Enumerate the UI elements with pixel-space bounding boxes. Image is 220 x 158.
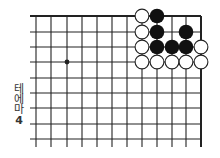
- star-point-icon: [65, 60, 70, 65]
- grid-lines: [30, 16, 201, 147]
- black-stone: [179, 25, 194, 40]
- white-stone: [135, 55, 149, 69]
- label-number: 4: [15, 116, 23, 126]
- white-stone: [135, 40, 149, 54]
- diagram-label: 테 에 마 4: [10, 85, 28, 126]
- black-stone: [150, 9, 165, 24]
- white-stone: [194, 40, 208, 54]
- black-stone: [150, 40, 165, 55]
- white-stone: [165, 55, 179, 69]
- black-stone: [179, 40, 194, 55]
- black-stone: [150, 25, 165, 40]
- go-board: [0, 0, 220, 158]
- white-stone: [194, 55, 208, 69]
- white-stone: [179, 55, 193, 69]
- star-points: [65, 60, 70, 65]
- white-stone: [150, 55, 164, 69]
- white-stone: [135, 25, 149, 39]
- white-stone: [135, 9, 149, 23]
- black-stone: [165, 40, 180, 55]
